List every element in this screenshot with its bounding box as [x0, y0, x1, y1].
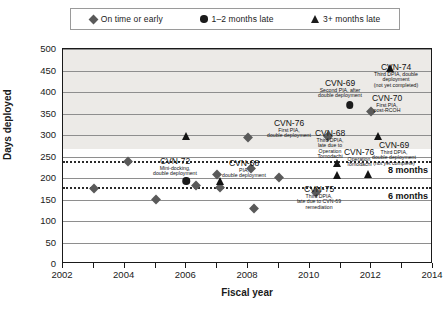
annotation-cvn-68-pia: CVN-68PIA,double deployment — [222, 159, 266, 179]
reference-line-label: 6 months — [388, 191, 428, 201]
annotation-cvn-69-third-dpia: CVN-69Third DPIA,double deployment(not y… — [372, 141, 416, 166]
diamond-marker-icon — [88, 14, 98, 24]
data-point-diamond — [251, 198, 258, 216]
circle-marker-icon — [346, 101, 354, 109]
diamond-marker-icon — [151, 195, 161, 205]
annotation-subtitle-line: double deployment — [267, 133, 311, 138]
annotation-subtitle-line: double deployment — [222, 173, 266, 178]
circle-marker-icon — [183, 177, 191, 185]
diamond-marker-icon — [274, 172, 284, 182]
x-axis-tick — [401, 263, 402, 268]
triangle-marker-icon — [364, 170, 372, 178]
reference-line-6-months — [63, 187, 431, 189]
diamond-marker-icon — [191, 181, 201, 191]
x-axis-tick — [216, 263, 217, 268]
x-axis-tick-label: 2004 — [113, 269, 134, 280]
x-axis-tick — [247, 263, 248, 268]
annotation-subtitle-line: double deployment — [318, 93, 362, 98]
annotation-subtitle-line: post-RCOH — [372, 108, 402, 113]
x-axis-tick — [432, 263, 433, 268]
gridline — [63, 221, 431, 222]
triangle-marker-icon — [374, 132, 382, 140]
circle-marker-icon — [200, 15, 208, 23]
annotation-cvn-69-second-pia: CVN-69Second PIA, afterdouble deployment — [318, 79, 362, 99]
annotation-cvn-72: CVN-72Mini-docking,double deployment — [153, 157, 197, 177]
annotation-subtitle-line: (not yet complete) — [372, 161, 416, 166]
gridline — [63, 49, 431, 50]
data-point-diamond — [124, 151, 131, 169]
annotation-subtitle-line: Tomodachi — [315, 154, 345, 159]
y-axis-tick-label: 450 — [26, 64, 56, 75]
annotation-cvn-68-third-dpia: CVN-68Third DPIA,late due toOperationTom… — [315, 129, 345, 160]
data-point-diamond — [275, 167, 282, 185]
y-axis-tick-label: 150 — [26, 193, 56, 204]
annotation-subtitle-line: double deployment — [153, 171, 197, 176]
annotation-subtitle-line: remediation — [297, 205, 341, 210]
diamond-marker-icon — [123, 156, 133, 166]
x-axis-tick-label: 2008 — [236, 269, 257, 280]
y-axis-tick-label: 500 — [26, 43, 56, 54]
plot-area: 8 months6 months CVN-72Mini-docking,doub… — [62, 48, 432, 263]
x-axis-tick — [93, 263, 94, 268]
y-axis-tick-label: 0 — [26, 258, 56, 269]
chart-legend: On time or early 1–2 months late 3+ mont… — [70, 8, 400, 30]
triangle-marker-icon — [182, 132, 190, 140]
x-axis-tick — [185, 263, 186, 268]
annotation-subtitle-line: (not yet completed) — [374, 83, 418, 88]
legend-item-late-3plus: 3+ months late — [311, 14, 380, 24]
diamond-marker-icon — [243, 132, 253, 142]
gridline — [63, 200, 431, 201]
x-axis-tick — [370, 263, 371, 268]
diamond-marker-icon — [249, 203, 259, 213]
reference-line-label: 8 months — [388, 165, 428, 175]
legend-label-late-1-2: 1–2 months late — [212, 14, 274, 24]
y-axis-tick-label: 400 — [26, 86, 56, 97]
y-axis-tick-label: 300 — [26, 129, 56, 140]
y-axis-tick-label: 350 — [26, 107, 56, 118]
annotation-cvn-74: CVN-74Third DPIA, doubledeployment(not y… — [374, 63, 418, 88]
y-axis-tick-label: 50 — [26, 236, 56, 247]
x-axis-tick-label: 2006 — [175, 269, 196, 280]
legend-label-late-3plus: 3+ months late — [323, 14, 380, 24]
diamond-marker-icon — [89, 184, 99, 194]
y-axis-tick-label: 100 — [26, 215, 56, 226]
x-axis-tick — [340, 263, 341, 268]
gridline — [63, 243, 431, 244]
x-axis-tick-label: 2014 — [421, 269, 442, 280]
x-axis: 2002200420062008201020122014 Fiscal year — [62, 263, 432, 303]
triangle-marker-icon — [333, 171, 341, 179]
x-axis-title: Fiscal year — [62, 287, 432, 298]
data-point-diamond — [192, 175, 199, 193]
y-axis-tick-label: 250 — [26, 150, 56, 161]
data-point-triangle — [182, 126, 190, 144]
x-axis-tick — [124, 263, 125, 268]
annotation-cvn-76-first-pia: CVN-76First PIA,double deployment — [267, 119, 311, 139]
data-point-triangle — [333, 165, 341, 183]
legend-item-on-time: On time or early — [90, 14, 163, 24]
x-axis-tick — [278, 263, 279, 268]
x-axis-tick — [309, 263, 310, 268]
annotation-cvn-70: CVN-70First PIA,post-RCOH — [372, 94, 402, 114]
y-axis-tick-label: 200 — [26, 172, 56, 183]
x-axis-tick — [155, 263, 156, 268]
data-point-diamond — [90, 178, 97, 196]
triangle-marker-icon — [311, 15, 319, 23]
y-axis-title: Days deployed — [2, 89, 13, 160]
x-axis-tick-label: 2002 — [51, 269, 72, 280]
legend-label-on-time: On time or early — [101, 14, 163, 24]
annotation-cvn-76-tomodachi: CVN-76OperationTomodachi — [344, 148, 374, 168]
x-axis-tick-label: 2010 — [298, 269, 319, 280]
annotation-cvn-75: CVN-75Third DPIA,late due to CVN-69remed… — [297, 185, 341, 210]
data-point-diamond — [152, 189, 159, 207]
data-point-diamond — [245, 127, 252, 145]
annotation-subtitle-line: Tomodachi — [344, 162, 374, 167]
x-axis-tick — [62, 263, 63, 268]
legend-item-late-1-2: 1–2 months late — [200, 14, 273, 24]
x-axis-tick-label: 2012 — [360, 269, 381, 280]
